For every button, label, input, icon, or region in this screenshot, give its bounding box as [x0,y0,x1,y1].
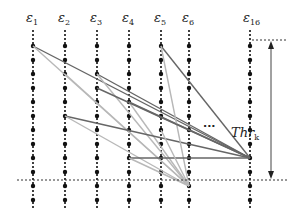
node-dot [95,170,99,174]
node-dot [248,114,252,118]
column-4 [127,30,131,208]
node-dot [159,184,163,188]
node-dot [187,86,191,90]
node-dot [159,72,163,76]
node-dot [31,170,35,174]
node-dot [95,142,99,146]
node-dot [248,86,252,90]
node-dot [127,58,131,62]
node-dot [63,86,67,90]
column-2 [63,30,67,208]
node-dot [159,86,163,90]
node-dot [63,170,67,174]
node-dot [187,100,191,104]
node-dot [95,58,99,62]
column-label-5: ε5 [154,10,166,27]
node-dot [187,44,191,48]
node-dot [248,198,252,202]
column-label-1: ε1 [26,10,38,27]
node-dot [127,184,131,188]
node-dot [159,198,163,202]
node-dot [63,156,67,160]
node-dot [31,198,35,202]
node-dot [127,198,131,202]
node-dot [31,184,35,188]
connection-line [65,116,189,186]
node-dot [127,86,131,90]
node-dot [187,72,191,76]
column-label-3: ε3 [90,10,102,27]
node-dot [63,100,67,104]
node-dot [31,58,35,62]
node-dot [31,128,35,132]
node-dot [187,198,191,202]
node-dot [248,44,252,48]
node-dot [31,72,35,76]
node-dot [187,58,191,62]
node-dot [248,184,252,188]
connection-line [97,74,189,186]
node-dot [31,142,35,146]
node-dot [95,198,99,202]
node-dot [248,100,252,104]
diagram-canvas: ε1ε2ε3ε4ε5ε6ε16 Thrk ... [0,0,305,211]
node-dot [127,170,131,174]
node-dot [95,156,99,160]
connection-line [129,158,189,186]
node-dot [63,142,67,146]
node-dot [63,198,67,202]
column-3 [95,30,99,208]
node-dot [31,86,35,90]
node-dot [187,114,191,118]
ellipsis: ... [203,117,216,130]
node-dot [63,44,67,48]
column-label-6: ε6 [182,10,194,27]
column-1 [31,30,35,208]
threshold-arrow [268,41,274,179]
node-dot [248,142,252,146]
node-dot [63,128,67,132]
threshold-label: Thrk [231,125,259,142]
connection-line [97,74,250,158]
node-dot [31,100,35,104]
node-dot [159,58,163,62]
column-16 [248,30,252,208]
node-dot [187,170,191,174]
node-dot [248,170,252,174]
node-dot [95,184,99,188]
node-dot [95,44,99,48]
node-dot [248,58,252,62]
node-dot [95,128,99,132]
node-dot [31,156,35,160]
node-dot [159,100,163,104]
node-dot [127,44,131,48]
node-dot [31,114,35,118]
node-dot [248,72,252,76]
node-dot [63,184,67,188]
column-label-2: ε2 [58,10,70,27]
node-dot [127,72,131,76]
node-dot [127,142,131,146]
column-label-16: ε16 [243,10,260,27]
column-label-4: ε4 [122,10,134,27]
node-dot [95,114,99,118]
